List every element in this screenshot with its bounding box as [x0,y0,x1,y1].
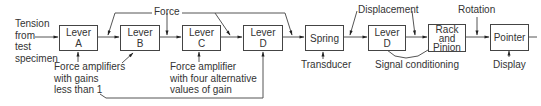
block-lever-d: Lever D [243,25,283,51]
block-pointer: Pointer [490,24,529,51]
displacement-leader-left [350,11,357,35]
block-rack-and-pinion: Rack and Pinion [428,24,466,52]
annotation-display: Display [493,59,526,71]
block-lever-a: Lever A [59,25,98,51]
block-spring: Spring [305,25,344,51]
annotation-force-amplifiers: Force amplifiers with gains less than 1 [54,61,125,96]
annotation-transducer: Transducer [301,59,351,71]
block-lever-c: Lever C [182,25,221,51]
annotation-force-amplifier-c: Force amplifier with four alternative va… [170,61,257,96]
block-lever-d2: Lever D [368,25,406,51]
rotation-label: Rotation [458,4,495,16]
signal-conditioning-bracket-left [387,50,406,58]
displacement-label: Displacement [358,4,419,16]
force-label: Force [154,6,180,18]
input-label: Tension from test specimen [15,18,58,64]
signal-conditioning-bracket-right [406,50,428,58]
annotation-signal-conditioning: Signal conditioning [375,59,459,71]
block-lever-b: Lever B [120,25,160,51]
